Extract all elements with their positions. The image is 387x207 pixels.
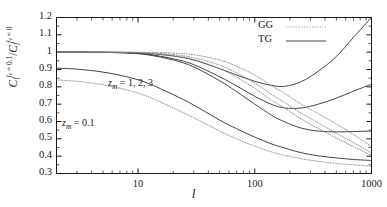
figure-container: Clfv = 0.1/Clfv = 0 l 0.30.40.50.60.70.8… xyxy=(0,0,387,207)
y-tick-label: 1 xyxy=(18,45,52,56)
y-tick-label: 1.1 xyxy=(18,27,52,38)
x-tick-label: 100 xyxy=(235,178,275,189)
y-tick-label: 0.5 xyxy=(18,131,52,142)
y-tick-label: 0.7 xyxy=(18,97,52,108)
y-tick-label: 0.8 xyxy=(18,79,52,90)
chart-canvas xyxy=(0,0,387,207)
annotation-label: zm = 0.1 xyxy=(62,117,94,131)
y-tick-label: 0.9 xyxy=(18,62,52,73)
legend-label-tg: TG xyxy=(258,33,272,44)
y-tick-label: 0.3 xyxy=(18,166,52,177)
annotation-label: zm = 1, 2, 3 xyxy=(108,77,153,91)
annotation-value: = 0.1 xyxy=(71,117,94,128)
x-axis-label: l xyxy=(0,186,387,202)
y-tick-label: 1.2 xyxy=(18,10,52,21)
x-tick-label: 10 xyxy=(118,178,158,189)
y-tick-label: 0.4 xyxy=(18,149,52,160)
plot-background xyxy=(0,0,387,207)
legend-label-gg: GG xyxy=(258,19,273,30)
x-tick-label: 1000 xyxy=(352,178,387,189)
annotation-value: = 1, 2, 3 xyxy=(117,77,153,88)
y-tick-label: 0.6 xyxy=(18,114,52,125)
